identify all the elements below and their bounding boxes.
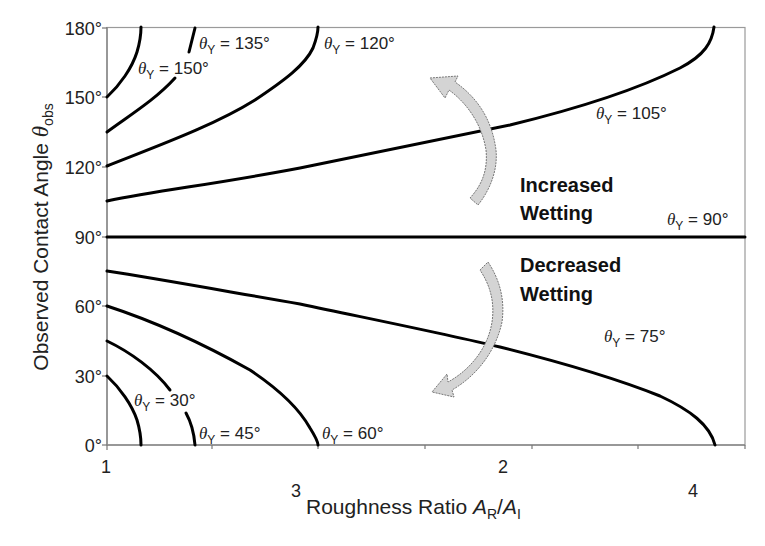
y-tick-180: 180°	[65, 19, 102, 39]
increased-wetting-label-line1: Increased	[520, 174, 613, 196]
y-tick-120: 120°	[65, 158, 102, 178]
label-theta-75: θY = 75°	[604, 327, 665, 350]
x-tick-3: 3	[291, 481, 301, 501]
decreased-wetting-label-line1: Decreased	[520, 254, 621, 276]
y-tick-0: 0°	[85, 436, 102, 456]
y-axis-title: Observed Contact Angle θobs	[28, 103, 56, 370]
y-tick-150: 150°	[65, 88, 102, 108]
y-tick-90: 90°	[75, 228, 102, 248]
x-tick-2: 2	[498, 457, 508, 477]
x-axis-title: Roughness Ratio AR/AI	[306, 495, 521, 522]
curves	[107, 27, 745, 445]
label-theta-60: θY = 60°	[322, 424, 383, 447]
label-theta-45: θY = 45°	[199, 424, 260, 447]
y-tick-60: 60°	[75, 297, 102, 317]
y-tick-30: 30°	[75, 367, 102, 387]
curve-theta-135-top	[189, 28, 195, 52]
increased-wetting-label-line2: Wetting	[520, 202, 593, 224]
curve-labels: θY = 150° θY = 135° θY = 120° θY = 105° …	[134, 34, 728, 447]
label-theta-135: θY = 135°	[199, 34, 270, 57]
decreased-wetting-arrow-icon	[432, 262, 503, 397]
curve-theta-150	[107, 27, 141, 97]
label-theta-30: θY = 30°	[134, 391, 195, 414]
curve-theta-45-bottom	[186, 413, 195, 445]
label-theta-90: θY = 90°	[667, 210, 728, 233]
label-theta-105: θY = 105°	[596, 104, 667, 127]
curve-theta-75	[107, 271, 715, 445]
decreased-wetting-label-line2: Wetting	[520, 283, 593, 305]
x-tick-4: 4	[688, 481, 698, 501]
curve-theta-30	[107, 376, 141, 445]
curve-theta-45	[107, 341, 170, 390]
label-theta-120: θY = 120°	[324, 34, 395, 57]
y-tick-labels: 0° 30° 60° 90° 120° 150° 180°	[65, 19, 102, 456]
x-tick-1: 1	[101, 457, 111, 477]
contact-angle-chart: 0° 30° 60° 90° 120° 150° 180° 1 2 3 4 Ro…	[0, 0, 765, 546]
